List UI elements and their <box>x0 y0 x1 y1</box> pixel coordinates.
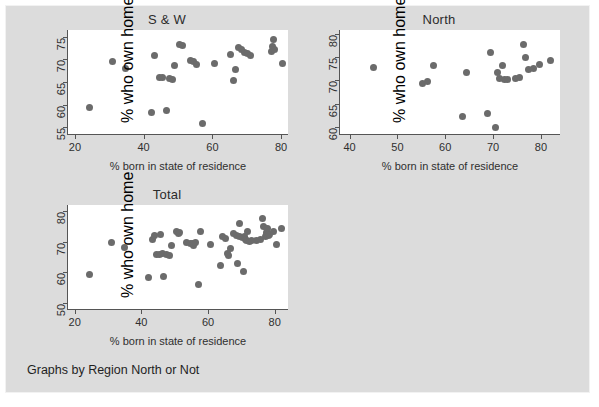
y-tick-label: 70 <box>54 242 68 256</box>
x-tick-mark <box>397 135 398 139</box>
scatter-point <box>463 69 470 76</box>
y-tick-label: 55 <box>54 127 68 141</box>
scatter-point <box>207 241 214 248</box>
scatter-point <box>278 225 285 232</box>
x-axis-line-total <box>67 309 288 310</box>
y-tick-label: 60 <box>326 127 340 141</box>
x-tick-label: 60 <box>439 141 451 153</box>
x-axis-line-sw <box>67 134 288 135</box>
x-axis-line-north <box>339 134 560 135</box>
scatter-point <box>197 228 204 235</box>
scatter-point <box>424 78 431 85</box>
figure-note: Graphs by Region North or Not <box>27 363 199 377</box>
scatter-point <box>240 268 247 275</box>
y-tick-label: 80 <box>54 211 68 225</box>
scatter-point <box>232 66 239 73</box>
x-tick-label: 80 <box>535 141 547 153</box>
scatter-point <box>230 77 237 84</box>
x-tick-label: 40 <box>137 141 149 153</box>
scatter-point <box>547 57 554 64</box>
plot-area-total <box>68 205 288 309</box>
x-tick-mark <box>212 135 213 139</box>
x-axis-title-north: % born in state of residence <box>382 160 518 172</box>
scatter-point <box>169 76 176 83</box>
scatter-point <box>499 62 506 69</box>
scatter-point <box>86 271 93 278</box>
scatter-point <box>176 229 183 236</box>
scatter-point <box>217 262 224 269</box>
x-tick-mark <box>275 310 276 314</box>
y-tick-label: 80 <box>326 34 340 48</box>
x-tick-mark <box>445 135 446 139</box>
y-axis-title-north: % who own home <box>391 19 409 123</box>
x-tick-label: 20 <box>69 316 81 328</box>
x-tick-label: 60 <box>202 316 214 328</box>
y-tick-label: 60 <box>54 105 68 119</box>
scatter-point <box>160 273 167 280</box>
y-tick-label: 50 <box>54 303 68 317</box>
panel-title-total: Total <box>24 187 310 203</box>
scatter-point <box>273 241 280 248</box>
scatter-point <box>148 109 155 116</box>
x-tick-label: 80 <box>269 316 281 328</box>
x-tick-label: 50 <box>391 141 403 153</box>
scatter-point <box>222 235 229 242</box>
x-tick-label: 70 <box>487 141 499 153</box>
scatter-point <box>270 228 277 235</box>
scatter-point <box>109 58 116 65</box>
scatter-point <box>227 51 234 58</box>
panel-north: North 6065707580 4050607080 % who own ho… <box>296 10 582 178</box>
scatter-point <box>430 62 437 69</box>
x-axis-title-sw: % born in state of residence <box>110 160 246 172</box>
scatter-point <box>163 107 170 114</box>
scatter-point <box>227 245 234 252</box>
y-tick-label: 65 <box>54 82 68 96</box>
x-tick-mark <box>541 135 542 139</box>
x-tick-mark <box>141 310 142 314</box>
scatter-point <box>536 61 543 68</box>
scatter-point <box>504 76 511 83</box>
x-tick-label: 20 <box>69 141 81 153</box>
x-tick-mark <box>350 135 351 139</box>
panel-title-sw: S & W <box>24 12 310 28</box>
x-tick-mark <box>493 135 494 139</box>
scatter-point <box>166 252 173 259</box>
x-tick-mark <box>144 135 145 139</box>
scatter-point <box>522 54 529 61</box>
panel-total: Total 50607080 20406080 % who own home %… <box>24 185 310 357</box>
panel-sw: S & W 5560657075 20406080 % who own home… <box>24 10 310 178</box>
scatter-point <box>492 124 499 131</box>
y-tick-label: 70 <box>326 80 340 94</box>
x-axis-title-total: % born in state of residence <box>110 335 246 347</box>
y-tick-label: 75 <box>326 57 340 71</box>
panel-title-north: North <box>296 12 582 28</box>
y-tick-label: 70 <box>54 59 68 73</box>
x-tick-mark <box>208 310 209 314</box>
y-axis-title-total: % who own home <box>119 194 137 298</box>
x-tick-mark <box>281 135 282 139</box>
scatter-point <box>192 239 199 246</box>
y-tick-label: 60 <box>54 272 68 286</box>
y-tick-label: 75 <box>54 37 68 51</box>
x-tick-label: 40 <box>135 316 147 328</box>
x-tick-label: 80 <box>275 141 287 153</box>
scatter-point <box>168 242 175 249</box>
scatter-point <box>171 62 178 69</box>
y-tick-label: 65 <box>326 104 340 118</box>
y-axis-title-sw: % who own home <box>119 19 137 123</box>
figure-canvas: S & W 5560657075 20406080 % who own home… <box>6 6 589 392</box>
x-tick-label: 40 <box>343 141 355 153</box>
x-tick-mark <box>75 135 76 139</box>
x-tick-label: 60 <box>206 141 218 153</box>
x-tick-mark <box>75 310 76 314</box>
plot-area-north <box>340 30 560 134</box>
